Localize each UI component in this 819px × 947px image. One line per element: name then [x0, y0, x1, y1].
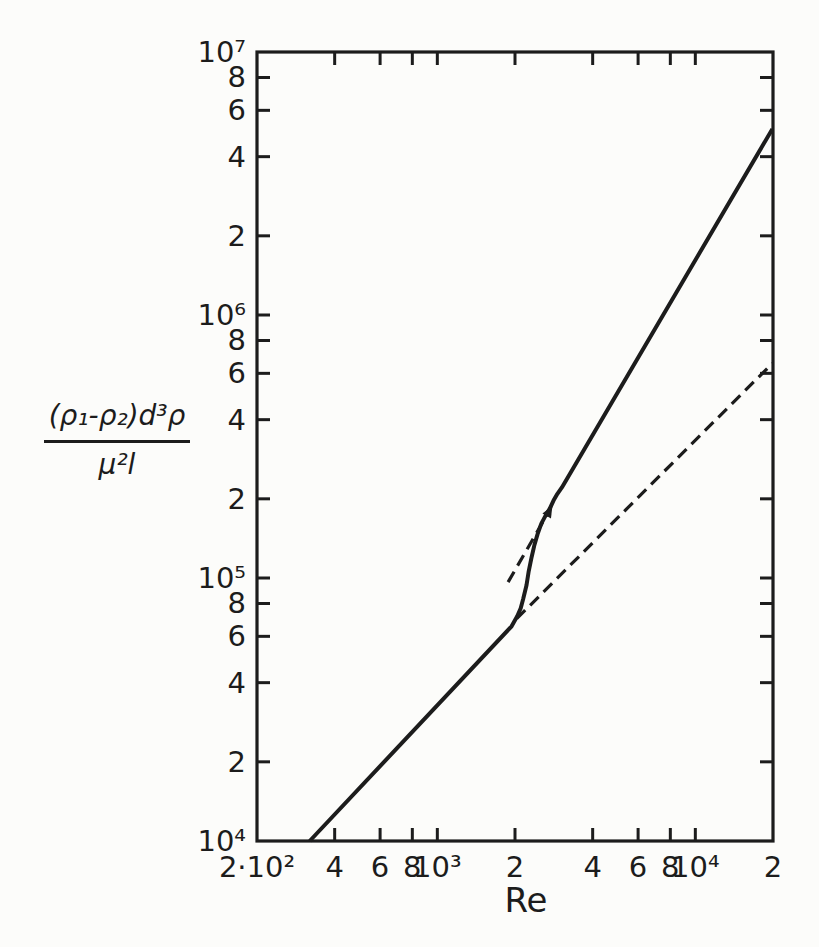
x-tick-label: 2 — [764, 850, 782, 884]
x-tick-label: 2 — [506, 850, 524, 884]
plot-frame — [257, 52, 773, 841]
y-tick-label: 6 — [228, 619, 246, 653]
y-tick-label: 10⁵ — [197, 561, 246, 595]
log-log-chart: 2·10²46810³246810⁴210⁴246810⁵246810⁶2468… — [0, 0, 819, 947]
y-tick-label: 4 — [228, 140, 246, 174]
x-axis-title: Re — [504, 880, 547, 920]
y-tick-label: 4 — [228, 403, 246, 437]
y-tick-label: 10⁴ — [197, 824, 246, 858]
x-tick-label: 4 — [583, 850, 601, 884]
x-tick-label: 6 — [371, 850, 389, 884]
y-tick-label: 6 — [228, 93, 246, 127]
y-tick-label: 10⁷ — [197, 35, 246, 69]
y-axis-labels: 10⁴246810⁵246810⁶246810⁷ — [197, 35, 246, 858]
x-axis-ticks — [335, 52, 696, 841]
main-curve-line — [310, 129, 773, 841]
y-tick-label: 2 — [228, 219, 246, 253]
x-tick-label: 10³ — [413, 850, 462, 884]
y-tick-label: 4 — [228, 666, 246, 700]
y-axis-ticks — [257, 77, 773, 761]
lower-branch-extension-line — [517, 363, 773, 618]
x-tick-label: 4 — [325, 850, 343, 884]
y-tick-label: 6 — [228, 356, 246, 390]
x-axis-labels: 2·10²46810³246810⁴2 — [219, 850, 782, 884]
x-tick-label: 10⁴ — [671, 850, 720, 884]
scanned-chart-page: (ρ₁-ρ₂)d³ρ μ²l 2·10²46810³246810⁴210⁴246… — [0, 0, 819, 947]
y-tick-label: 2 — [228, 745, 246, 779]
y-tick-label: 2 — [228, 482, 246, 516]
x-tick-label: 6 — [629, 850, 647, 884]
data-series — [310, 129, 773, 841]
y-tick-label: 10⁶ — [197, 298, 246, 332]
